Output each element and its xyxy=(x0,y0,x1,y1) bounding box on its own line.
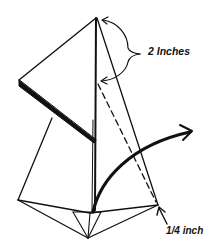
center-crease-inner xyxy=(92,120,93,212)
dashed-fold-line xyxy=(98,84,156,202)
left-body-edge xyxy=(18,118,52,200)
top-measure-label: 2 Inches xyxy=(148,45,190,57)
fold-arrow xyxy=(93,132,190,212)
measure-brace-top xyxy=(103,20,140,54)
center-crease xyxy=(95,18,96,210)
measure-brace-bottom xyxy=(102,54,140,81)
left-flap-shadow xyxy=(19,80,96,143)
bottom-measure-label: 1/4 inch xyxy=(166,225,203,236)
bottom-point-right xyxy=(88,205,158,238)
folding-diagram xyxy=(0,0,216,246)
top-left-edge xyxy=(19,18,96,80)
